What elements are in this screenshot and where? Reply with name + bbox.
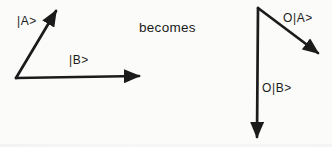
ket-transformation-figure: |A> |B> becomes O|A> O|B> <box>0 0 332 147</box>
scan-edge-artifact <box>0 144 332 147</box>
vector-ob-label: O|B> <box>262 82 292 94</box>
vector-a-label: |A> <box>17 15 37 27</box>
vector-ob-arrow <box>257 8 258 137</box>
vector-b-arrow <box>16 76 139 78</box>
vector-b-label: |B> <box>69 54 89 66</box>
vector-oa-label: O|A> <box>283 12 313 24</box>
becomes-label: becomes <box>139 21 196 35</box>
